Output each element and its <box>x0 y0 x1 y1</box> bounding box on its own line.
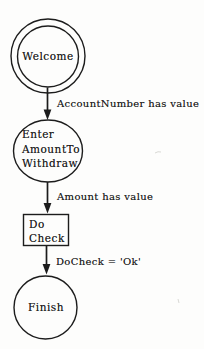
node-enter-amount-to-withdraw: Enter AmountTo Withdraw <box>14 120 83 182</box>
edge-label-amount: Amount has value <box>56 191 153 202</box>
enter-label-line3: Withdraw <box>22 157 78 169</box>
edge-enter-to-docheck: Amount has value <box>44 182 154 214</box>
arrowhead-icon <box>44 110 52 121</box>
statechart-diagram: Welcome AccountNumber has value Enter Am… <box>0 0 204 349</box>
finish-label: Finish <box>28 301 64 313</box>
do-check-label-line2: Check <box>29 232 65 244</box>
arrowhead-icon <box>43 264 51 275</box>
enter-label-line1: Enter <box>22 128 55 140</box>
edge-label-accountnumber: AccountNumber has value <box>56 98 199 109</box>
node-welcome: Welcome <box>11 19 85 93</box>
edge-welcome-to-enter: AccountNumber has value <box>44 88 200 121</box>
edge-label-docheck-ok: DoCheck = 'Ok' <box>56 256 141 267</box>
node-do-check: Do Check <box>24 215 69 246</box>
edge-docheck-to-finish: DoCheck = 'Ok' <box>43 246 142 275</box>
node-finish: Finish <box>14 276 77 339</box>
do-check-label-line1: Do <box>29 218 45 230</box>
welcome-label: Welcome <box>22 50 73 62</box>
scan-speck <box>178 299 179 303</box>
scan-speck <box>155 152 161 153</box>
arrowhead-icon <box>44 203 52 214</box>
enter-label-line2: AmountTo <box>21 143 80 155</box>
